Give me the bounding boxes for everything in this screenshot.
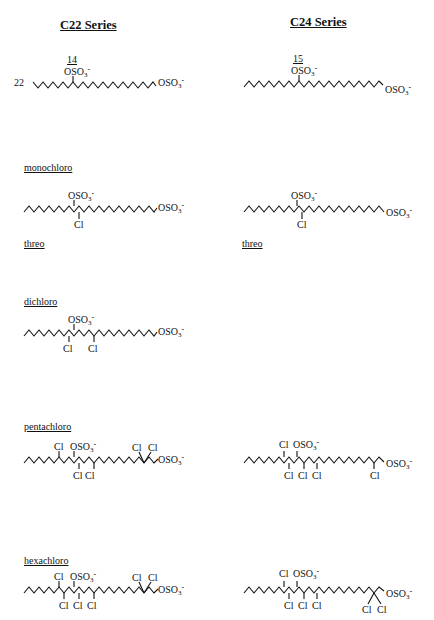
- c22-hexa-osulfate: OSO3-: [70, 570, 97, 584]
- svg-text:OSO3-: OSO3-: [293, 438, 320, 452]
- svg-text:OSO3-: OSO3-: [68, 189, 95, 203]
- c22-hexa-cl-2: Cl: [59, 600, 69, 611]
- c22-penta-osulfate: OSO3-: [70, 440, 97, 454]
- c22-hexa-cl-1: Cl: [54, 571, 64, 582]
- c22-di-cl-2: Cl: [88, 343, 98, 354]
- c22-hexa-cl-3: Cl: [73, 600, 83, 611]
- c22-hexa-osulfate-terminal: OSO3-: [158, 583, 185, 597]
- svg-text:OSO3-: OSO3-: [385, 83, 412, 97]
- position-14-label: 14: [67, 54, 77, 65]
- c22-mono-osulfate-terminal: OSO3-: [158, 201, 185, 215]
- svg-text:OSO3-: OSO3-: [386, 206, 413, 220]
- svg-text:OSO3-: OSO3-: [386, 587, 413, 601]
- position-22-label: 22: [14, 77, 24, 88]
- c22-di-cl-1: Cl: [63, 343, 73, 354]
- c22-mono-cl: Cl: [74, 219, 84, 230]
- svg-text:OSO3-: OSO3-: [68, 313, 95, 327]
- svg-text:OSO3-: OSO3-: [386, 457, 413, 471]
- svg-text:OSO3-: OSO3-: [70, 440, 97, 454]
- position-15-label: 15: [293, 53, 303, 64]
- c22-hexa-cl-4: Cl: [87, 600, 97, 611]
- c22-di-osulfate-terminal: OSO3-: [158, 325, 185, 339]
- c24-penta-osulfate: OSO3-: [293, 438, 320, 452]
- c22-hexachloro-chain: [24, 587, 158, 593]
- c24-parent-osulfate-terminal: OSO3-: [385, 83, 412, 97]
- c22-penta-cl-3: Cl: [85, 470, 95, 481]
- c24-hexa-cl-4: Cl: [312, 600, 322, 611]
- c22-di-osulfate: OSO3-: [68, 313, 95, 327]
- c22-parent-chain: [33, 82, 156, 88]
- c22-dichloro-chain: [24, 330, 157, 336]
- molecule-canvas: 22 14 OSO3- OSO3- 15 OSO3- OSO3- OSO3- C…: [0, 0, 434, 620]
- c24-parent-chain: [244, 81, 383, 87]
- c24-hexa-cl-1: Cl: [279, 568, 289, 579]
- c24-hexa-osulfate: OSO3-: [293, 567, 320, 581]
- c22-mono-osulfate: OSO3-: [68, 189, 95, 203]
- c24-hexa-cl-5: Cl: [362, 604, 372, 615]
- svg-text:OSO3-: OSO3-: [64, 65, 91, 79]
- c24-penta-cl-4: Cl: [312, 470, 322, 481]
- c24-mono-cl: Cl: [297, 219, 307, 230]
- c22-penta-cl-5: Cl: [148, 442, 158, 453]
- c24-hexachloro-chain: [244, 587, 384, 593]
- c24-mono-osulfate-terminal: OSO3-: [386, 206, 413, 220]
- c22-penta-cl-4: Cl: [132, 442, 142, 453]
- svg-text:OSO3-: OSO3-: [293, 567, 320, 581]
- c24-penta-cl-2: Cl: [284, 470, 294, 481]
- c22-hexa-cl-5: Cl: [132, 572, 142, 583]
- c24-penta-osulfate-terminal: OSO3-: [386, 457, 413, 471]
- svg-text:OSO3-: OSO3-: [291, 189, 318, 203]
- c22-parent-osulfate-14: OSO3-: [64, 65, 91, 79]
- c22-monochloro-chain: [24, 206, 157, 212]
- c24-hexa-cl-6: Cl: [377, 604, 387, 615]
- c22-pentachloro-chain: [24, 457, 158, 463]
- svg-text:OSO3-: OSO3-: [158, 201, 185, 215]
- c24-hexa-osulfate-terminal: OSO3-: [386, 587, 413, 601]
- c22-penta-osulfate-terminal: OSO3-: [158, 453, 185, 467]
- c22-penta-cl-2: Cl: [73, 470, 83, 481]
- svg-text:OSO3-: OSO3-: [158, 325, 185, 339]
- c24-hexa-cl-2: Cl: [284, 600, 294, 611]
- svg-text:OSO3-: OSO3-: [158, 76, 185, 90]
- c24-pentachloro-chain: [244, 457, 384, 463]
- c24-penta-cl-5: Cl: [370, 470, 380, 481]
- c24-parent-osulfate-15: OSO3-: [291, 64, 318, 78]
- c22-hexa-cl-6: Cl: [148, 572, 158, 583]
- c24-monochloro-chain: [244, 206, 384, 212]
- c22-parent-osulfate-terminal: OSO3-: [158, 76, 185, 90]
- svg-text:OSO3-: OSO3-: [291, 64, 318, 78]
- svg-text:OSO3-: OSO3-: [70, 570, 97, 584]
- c24-penta-cl-3: Cl: [298, 470, 308, 481]
- svg-text:OSO3-: OSO3-: [158, 453, 185, 467]
- c24-hexa-cl-3: Cl: [298, 600, 308, 611]
- c24-mono-osulfate: OSO3-: [291, 189, 318, 203]
- svg-text:OSO3-: OSO3-: [158, 583, 185, 597]
- c24-penta-cl-1: Cl: [279, 439, 289, 450]
- c22-penta-cl-1: Cl: [54, 441, 64, 452]
